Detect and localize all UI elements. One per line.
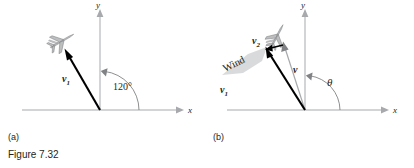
label-v1-panel-b: v1 — [220, 84, 228, 98]
angle-label-120: 120° — [113, 81, 132, 92]
y-axis-label-panel-b: y — [300, 0, 305, 10]
vector-v-panel-b — [281, 42, 305, 111]
label-v1-panel-a: v1 — [62, 73, 70, 87]
label-v-panel-b: v — [293, 64, 298, 75]
angle-label-theta: θ — [327, 76, 333, 88]
panel-a-y-axis — [97, 9, 104, 110]
panel-b-y-axis — [302, 9, 309, 110]
panel-b: Wind — [213, 0, 397, 142]
figure-7-32: v1 120° x y (a) — [0, 0, 414, 168]
airplane-icon — [45, 26, 79, 56]
panel-tag-a: (a) — [8, 132, 19, 142]
y-axis-label-panel-a: y — [95, 0, 100, 10]
x-axis-label-panel-a: x — [187, 105, 192, 115]
panel-tag-b: (b) — [213, 132, 224, 142]
figure-canvas: v1 120° x y (a) — [0, 0, 414, 168]
x-axis-label-panel-b: x — [392, 105, 397, 115]
panel-a-x-axis — [22, 107, 184, 114]
panel-a: v1 120° x y (a) — [8, 0, 192, 142]
vector-v1-panel-b — [266, 47, 306, 111]
panel-b-angle-arc — [306, 72, 340, 110]
figure-caption: Figure 7.32 — [8, 149, 59, 160]
panel-b-x-axis — [227, 107, 389, 114]
label-v2-panel-b: v2 — [252, 35, 260, 49]
